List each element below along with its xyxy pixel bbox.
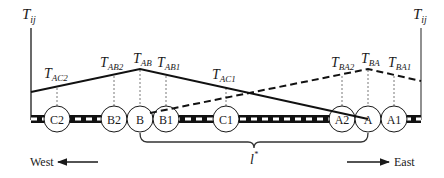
label-t-ba1: TBA1 — [388, 55, 411, 72]
solid-travel-time-line — [31, 69, 368, 119]
svg-text:A: A — [364, 113, 373, 127]
station-b2: B2 — [101, 106, 127, 132]
distance-bracket — [140, 133, 368, 148]
west-label: West — [30, 155, 54, 169]
svg-text:C1: C1 — [219, 113, 233, 127]
label-t-ac1: TAC1 — [212, 67, 236, 84]
label-t-ba2: TBA2 — [331, 55, 355, 72]
station-c2: C2 — [44, 106, 70, 132]
svg-text:C2: C2 — [50, 113, 64, 127]
station-b: B — [127, 106, 153, 132]
left-axis-label: Tij — [22, 6, 36, 25]
distance-label: l* — [250, 150, 258, 167]
label-t-ab1: TAB1 — [157, 55, 180, 72]
station-a2: A2 — [329, 106, 355, 132]
station-a1: A1 — [381, 106, 407, 132]
travel-time-diagram: Tij Tij C2 B2 B B1 — [0, 0, 444, 178]
svg-text:B2: B2 — [107, 113, 121, 127]
svg-text:A1: A1 — [387, 113, 402, 127]
svg-text:B: B — [136, 113, 144, 127]
station-c1: C1 — [213, 106, 239, 132]
svg-text:B1: B1 — [159, 113, 173, 127]
label-t-ab: TAB — [133, 51, 152, 68]
east-label: East — [394, 155, 415, 169]
dashed-travel-time-line — [150, 69, 421, 113]
label-t-ab2: TAB2 — [100, 55, 124, 72]
label-t-ac2: TAC2 — [44, 66, 68, 83]
label-t-ba: TBA — [361, 51, 380, 68]
right-axis-label: Tij — [413, 6, 427, 25]
